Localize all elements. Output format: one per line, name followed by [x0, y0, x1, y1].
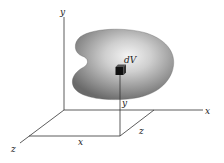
projection-z-label: z: [138, 126, 144, 136]
projection-z-line: [120, 110, 154, 136]
dv-label: dV: [124, 55, 138, 65]
projection-x-label: x: [78, 137, 83, 147]
volume-element-diagram: y x z dV y x z: [0, 0, 224, 163]
projection-y-label: y: [121, 98, 128, 108]
z-axis: [20, 110, 64, 143]
x-axis-label: x: [205, 106, 210, 116]
y-axis-label: y: [59, 7, 66, 17]
z-axis-label: z: [10, 144, 16, 154]
volume-element-cube: [116, 65, 127, 76]
